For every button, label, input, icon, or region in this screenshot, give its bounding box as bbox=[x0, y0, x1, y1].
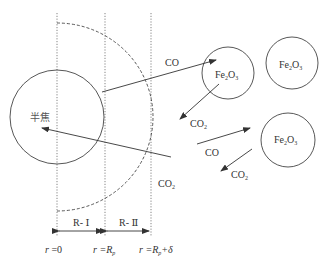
co-flow-arrow-2 bbox=[197, 128, 250, 144]
co2-return-label: CO2 bbox=[158, 178, 175, 190]
co2-label-1: CO2 bbox=[190, 118, 207, 130]
semicoke-label: 半焦 bbox=[30, 111, 50, 123]
co2-return-arrow bbox=[42, 128, 171, 157]
reaction-diagram: 半焦 Fe2O3 Fe2O3 Fe2O3 CO CO2 CO2 CO CO2 R… bbox=[0, 0, 327, 266]
boundary-label-r0: r =0 bbox=[45, 244, 62, 255]
fe2o3-label-3: Fe2O3 bbox=[274, 134, 297, 146]
fe2o3-label-2: Fe2O3 bbox=[279, 59, 302, 71]
co2-label-2: CO2 bbox=[231, 169, 248, 181]
co-label-2: CO bbox=[205, 147, 219, 158]
boundary-label-rp-delta: r =Rp+δ bbox=[139, 244, 173, 256]
co2-flow-arrow-1 bbox=[180, 84, 219, 119]
region-1-label: R- Ⅰ bbox=[73, 217, 90, 228]
co-label-1: CO bbox=[165, 57, 179, 68]
co-flow-arrow-1 bbox=[102, 60, 216, 92]
boundary-label-rp: r =Rp bbox=[93, 244, 115, 256]
region-2-label: R- Ⅱ bbox=[119, 217, 139, 228]
fe2o3-label-1: Fe2O3 bbox=[215, 69, 238, 81]
co2-flow-arrow-2 bbox=[221, 149, 252, 171]
